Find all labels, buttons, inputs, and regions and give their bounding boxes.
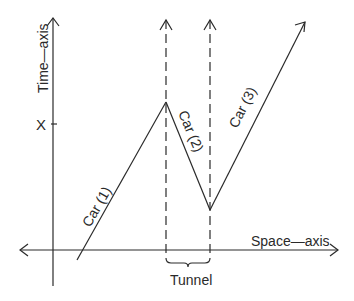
space-axis-label: Space—axis (251, 233, 330, 249)
car-1-worldline (77, 102, 166, 260)
x-tick-label: X (36, 116, 46, 133)
car-3-worldline (210, 22, 305, 210)
spacetime-diagram: Time—axis X Space—axis Tunnel Car (1) Ca… (0, 0, 354, 301)
car-1-label: Car (1) (79, 184, 115, 230)
tunnel-label: Tunnel (170, 272, 212, 288)
car-3-arrow-icon (295, 22, 305, 32)
tunnel-brace (166, 258, 210, 267)
car-2-label: Car (2) (175, 108, 207, 154)
time-axis-label: Time—axis (35, 24, 51, 94)
